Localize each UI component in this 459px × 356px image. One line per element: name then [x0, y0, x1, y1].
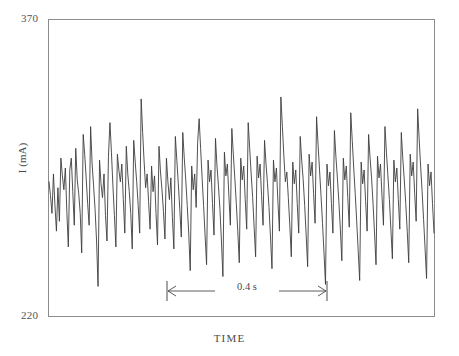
figure-panel: 370 220 I (mA) TIME 0.4 s — [0, 0, 459, 356]
waveform-group — [49, 97, 434, 286]
y-axis-max-tick-label: 370 — [21, 12, 38, 24]
y-axis-title: I (mA) — [16, 128, 28, 188]
current-trace-line — [49, 97, 434, 286]
scale-bar-label: 0.4 s — [215, 281, 279, 292]
plot-canvas — [0, 0, 459, 356]
x-axis-title: TIME — [0, 332, 459, 344]
y-axis-min-tick-label: 220 — [21, 309, 38, 321]
